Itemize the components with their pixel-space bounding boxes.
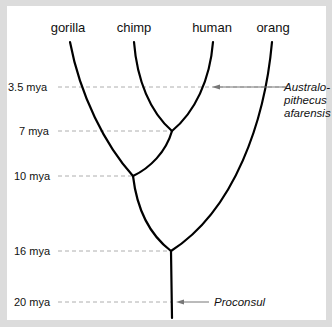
time-label-20: 20 mya xyxy=(14,296,51,308)
phylogenetic-tree: 3.5 mya 7 mya 10 mya 16 mya 20 mya goril… xyxy=(0,0,332,327)
branch-chimp-human xyxy=(133,131,172,176)
branch-trunk xyxy=(171,251,172,318)
time-label-7: 7 mya xyxy=(19,125,50,137)
branch-african-apes xyxy=(133,176,171,251)
time-label-16: 16 mya xyxy=(14,245,51,257)
tip-label-orang: orang xyxy=(256,20,289,35)
branch-gorilla xyxy=(70,42,133,176)
tip-label-gorilla: gorilla xyxy=(51,20,86,35)
australopithecus-label-1: Australo- xyxy=(283,81,330,93)
branch-orang xyxy=(171,42,272,251)
tip-label-chimp: chimp xyxy=(117,20,152,35)
australopithecus-arrowhead xyxy=(212,85,220,90)
branch-chimp xyxy=(134,42,172,131)
time-label-10: 10 mya xyxy=(14,170,51,182)
australopithecus-label-3: afarensis xyxy=(284,107,331,119)
australopithecus-label-2: pithecus xyxy=(283,94,327,106)
branch-human xyxy=(172,42,213,131)
proconsul-label: Proconsul xyxy=(214,296,266,308)
proconsul-arrowhead xyxy=(176,300,184,305)
tip-label-human: human xyxy=(192,20,232,35)
time-label-3-5: 3.5 mya xyxy=(8,81,48,93)
